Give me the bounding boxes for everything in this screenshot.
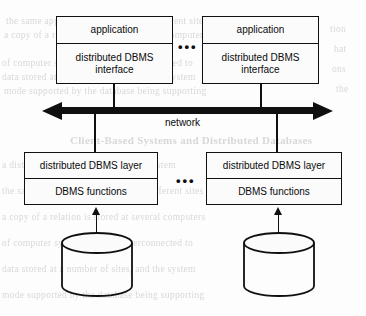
cylinder-top-ellipse-right bbox=[244, 233, 314, 253]
application-label-left: application bbox=[57, 17, 172, 43]
dbms-interface-label-left: distributed DBMS interface bbox=[57, 43, 172, 83]
application-stack-right: application distributed DBMS interface bbox=[202, 16, 319, 84]
network-label: network bbox=[165, 117, 200, 128]
distributed-dbms-diagram: the same application may be run at diffe… bbox=[0, 0, 366, 316]
bleed-text-line: a copy of a relation is stored at severa… bbox=[2, 212, 205, 222]
network-arrowhead-right bbox=[313, 102, 333, 120]
application-stack-left: application distributed DBMS interface bbox=[56, 16, 173, 84]
dbms-functions-label-right: DBMS functions bbox=[207, 178, 341, 204]
dbms-layer-label-right: distributed DBMS layer bbox=[207, 153, 341, 178]
cylinder-bottom-arc-left bbox=[62, 286, 132, 296]
ellipsis-lower: ••• bbox=[176, 174, 196, 187]
dbms-layer-label-left: distributed DBMS layer bbox=[25, 153, 157, 178]
dbms-layer-stack-left: distributed DBMS layer DBMS functions bbox=[24, 152, 158, 205]
cylinder-bottom-arc-right bbox=[244, 286, 314, 296]
connector-network-to-layer-left bbox=[94, 113, 96, 153]
dbms-layer-stack-right: distributed DBMS layer DBMS functions bbox=[206, 152, 342, 205]
bleed-text-line: the bbox=[336, 84, 349, 94]
dbms-interface-label-right: distributed DBMS interface bbox=[203, 43, 318, 83]
network-arrowhead-left bbox=[42, 102, 62, 120]
bleed-text-line: ons bbox=[332, 64, 346, 74]
connector-network-to-layer-right bbox=[276, 113, 278, 153]
database-cylinder-right bbox=[242, 232, 318, 298]
bleed-text-line: mode supported by the database being sup… bbox=[4, 86, 206, 96]
bleed-text-line: hat bbox=[334, 44, 347, 54]
database-cylinder-left bbox=[60, 232, 136, 298]
dbms-functions-label-left: DBMS functions bbox=[25, 178, 157, 204]
ellipsis-upper: ••• bbox=[178, 40, 198, 53]
bleed-text-line: tion bbox=[330, 24, 346, 34]
application-label-right: application bbox=[203, 17, 318, 43]
cylinder-top-ellipse-left bbox=[62, 233, 132, 253]
